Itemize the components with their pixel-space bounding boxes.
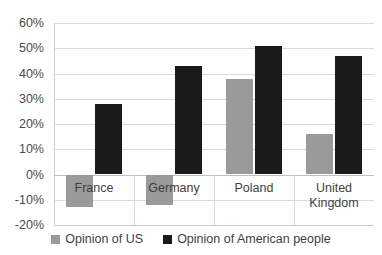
bar	[175, 66, 202, 175]
x-axis-category-label: Poland	[214, 181, 294, 196]
x-axis-category-label: United Kingdom	[294, 181, 374, 211]
bar	[95, 104, 122, 175]
y-axis-tick-label: 50%	[19, 41, 44, 55]
y-axis-tick-label: -20%	[15, 218, 44, 232]
y-axis-tick-label: 40%	[19, 67, 44, 81]
gridline	[54, 225, 374, 226]
y-axis-labels: 60%50%40%30%20%10%0%-10%-20%	[0, 0, 50, 255]
legend-item[interactable]: Opinion of American people	[163, 232, 331, 246]
y-axis-tick-label: 0%	[26, 168, 44, 182]
legend-label: Opinion of US	[65, 232, 143, 246]
bar	[335, 56, 362, 175]
bar	[226, 79, 253, 175]
gridline	[54, 74, 374, 75]
bar-chart: 60%50%40%30%20%10%0%-10%-20% FranceGerma…	[0, 0, 382, 255]
y-axis-tick-label: 10%	[19, 142, 44, 156]
y-axis-tick-label: 20%	[19, 117, 44, 131]
legend-item[interactable]: Opinion of US	[51, 232, 143, 246]
legend-swatch-icon	[51, 235, 60, 244]
gridline	[54, 99, 374, 100]
legend-label: Opinion of American people	[177, 232, 331, 246]
legend: Opinion of USOpinion of American people	[0, 232, 382, 246]
bar	[306, 134, 333, 174]
y-axis-tick-label: 30%	[19, 92, 44, 106]
gridline	[54, 23, 374, 24]
y-axis-tick-label: 60%	[19, 16, 44, 30]
gridline	[54, 48, 374, 49]
legend-swatch-icon	[163, 235, 172, 244]
x-axis-category-label: France	[54, 181, 134, 196]
x-axis-category-label: Germany	[134, 181, 214, 196]
bar	[255, 46, 282, 175]
y-axis-tick-label: -10%	[15, 193, 44, 207]
